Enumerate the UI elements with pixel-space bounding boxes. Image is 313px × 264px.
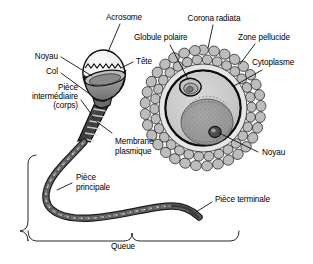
sperm-midpiece [78,105,108,142]
label-noyau-ovocyte: Noyau [262,148,285,158]
label-piece-principale-line1: Pièce [76,173,96,183]
leader-corona [208,25,213,48]
label-cytoplasme: Cytoplasme [252,58,294,68]
label-membrane-line2: plasmique [115,147,151,157]
label-acrosome: Acrosome [96,13,152,23]
figure-canvas: Acrosome Tête Noyau Col Pièce intermédia… [0,0,313,264]
leader-piece-principale [57,183,72,190]
label-queue: Queue [88,242,158,252]
label-piece-terminale: Pièce terminale [215,195,270,205]
leader-acrosome [108,24,120,52]
ovocyte-group [140,45,266,171]
globule-polaire [180,78,202,96]
label-globule-polaire: Globule polaire [134,33,188,43]
label-membrane-line1: Membrane [115,137,153,147]
label-tete: Tête [136,57,152,67]
label-piece-intermediaire-line3: (corps) [0,101,78,111]
label-corona-radiata: Corona radiata [176,14,252,24]
leader-membrane [97,122,112,133]
nucleolus [209,126,221,137]
label-zone-pellucide: Zone pellucide [238,33,290,43]
label-piece-principale-line2: principale [76,183,110,193]
ovocyte-nucleus-group [181,99,233,145]
leader-piece-terminale [196,202,212,212]
sperm-head [80,47,129,101]
label-col: Col [8,67,58,77]
label-noyau-sperm: Noyau [8,52,58,62]
